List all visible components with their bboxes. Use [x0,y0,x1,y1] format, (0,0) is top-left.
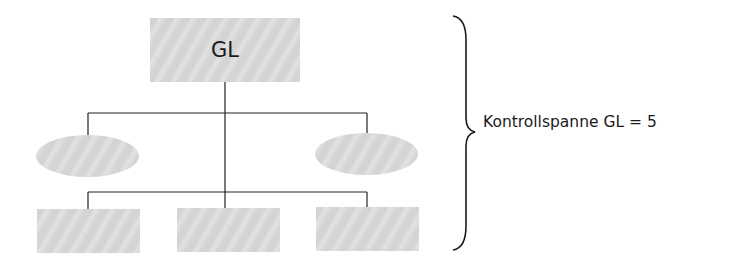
span-of-control-label: Kontrollspanne GL = 5 [483,113,657,131]
staff-node-right [315,133,418,175]
line-node-right [316,207,419,251]
staff-node-left [36,135,139,177]
curly-brace [453,16,475,250]
line-node-left [37,209,140,253]
line-node-middle [177,208,280,252]
top-node-gl: GL [150,18,300,82]
top-node-label: GL [150,18,300,82]
